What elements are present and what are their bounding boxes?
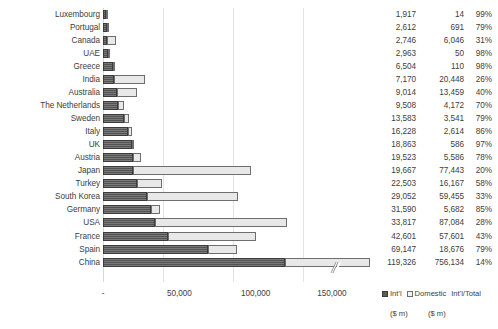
category-label: Sweden — [8, 112, 100, 125]
value-ratio: 43% — [462, 230, 492, 243]
bar-track — [103, 75, 145, 84]
bar-segment-intl — [103, 127, 128, 136]
value-intl: 13,583 — [358, 112, 416, 125]
value-domestic: 77,443 — [418, 164, 464, 177]
value-intl: 2,746 — [358, 34, 416, 47]
bar-segment-intl — [103, 140, 132, 149]
chart-row: UK18,86358697% — [0, 138, 498, 151]
bar-segment-intl — [103, 114, 124, 123]
value-ratio: 78% — [462, 151, 492, 164]
bar-segment-domestic — [151, 205, 160, 214]
chart-row: The Netherlands9,5084,17270% — [0, 99, 498, 112]
value-ratio: 85% — [462, 203, 492, 216]
value-ratio: 99% — [462, 8, 492, 21]
value-domestic: 586 — [418, 138, 464, 151]
bar-track — [103, 179, 162, 188]
bar-segment-domestic — [208, 245, 236, 254]
value-domestic: 3,541 — [418, 112, 464, 125]
bar-segment-domestic — [124, 114, 129, 123]
chart-row: Turkey22,50316,16758% — [0, 177, 498, 190]
bar-segment-intl — [103, 192, 147, 201]
value-domestic: 691 — [418, 21, 464, 34]
bar-segment-domestic — [113, 62, 115, 71]
value-domestic: 20,448 — [418, 73, 464, 86]
legend-swatch-domestic-icon — [407, 291, 413, 297]
bar-segment-domestic — [133, 166, 251, 175]
value-ratio: 79% — [462, 21, 492, 34]
value-intl: 29,052 — [358, 190, 416, 203]
value-domestic: 50 — [418, 47, 464, 60]
bar-track — [103, 62, 113, 71]
value-ratio: 98% — [462, 47, 492, 60]
category-label: France — [8, 230, 100, 243]
bar-track — [103, 153, 141, 162]
chart-row: China119,326756,13414% — [0, 256, 498, 269]
bar-segment-domestic — [147, 192, 238, 201]
legend-label-domestic: Domestic — [415, 289, 447, 298]
value-ratio: 28% — [462, 216, 492, 229]
category-label: Luxembourg — [8, 8, 100, 21]
chart-row: France42,60157,60143% — [0, 230, 498, 243]
legend-swatch-intl-icon — [382, 291, 388, 297]
value-intl: 33,817 — [358, 216, 416, 229]
category-label: The Netherlands — [8, 99, 100, 112]
category-label: UK — [8, 138, 100, 151]
category-label: Canada — [8, 34, 100, 47]
chart-row: India7,17020,44826% — [0, 73, 498, 86]
bar-track — [103, 218, 287, 227]
category-label: Turkey — [8, 177, 100, 190]
value-intl: 1,917 — [358, 8, 416, 21]
value-domestic: 18,676 — [418, 243, 464, 256]
value-domestic: 13,459 — [418, 86, 464, 99]
value-intl: 7,170 — [358, 73, 416, 86]
bar-segment-domestic — [106, 10, 108, 19]
bar-track — [103, 127, 132, 136]
chart-row: UAE2,9635098% — [0, 47, 498, 60]
bar-segment-intl — [103, 218, 155, 227]
bar-segment-intl — [103, 258, 285, 267]
category-label: UAE — [8, 47, 100, 60]
x-tick-label: 50,000 — [149, 288, 209, 300]
bar-segment-domestic — [107, 23, 109, 32]
bar-segment-intl — [103, 101, 118, 110]
legend-unit-intl: ($ m) — [390, 309, 408, 318]
value-domestic: 2,614 — [418, 125, 464, 138]
bar-segment-domestic — [118, 101, 124, 110]
value-domestic: 6,046 — [418, 34, 464, 47]
bar-track — [103, 114, 129, 123]
chart-row: South Korea29,05259,45533% — [0, 190, 498, 203]
value-ratio: 86% — [462, 125, 492, 138]
bar-segment-domestic — [108, 49, 110, 58]
bar-track — [103, 245, 237, 254]
legend-label-intl: Int'l — [390, 289, 402, 298]
bar-track — [103, 88, 137, 97]
category-label: Italy — [8, 125, 100, 138]
category-label: China — [8, 256, 100, 269]
value-ratio: 79% — [462, 112, 492, 125]
bar-track — [103, 166, 251, 175]
value-intl: 69,147 — [358, 243, 416, 256]
value-domestic: 110 — [418, 60, 464, 73]
bar-segment-intl — [103, 245, 208, 254]
value-intl: 18,863 — [358, 138, 416, 151]
bar-track — [103, 10, 106, 19]
value-domestic: 16,167 — [418, 177, 464, 190]
bar-segment-domestic — [107, 36, 116, 45]
bar-segment-intl — [103, 205, 151, 214]
category-label: Spain — [8, 243, 100, 256]
value-domestic: 5,586 — [418, 151, 464, 164]
value-ratio: 26% — [462, 73, 492, 86]
value-ratio: 14% — [462, 256, 492, 269]
bar-segment-domestic — [117, 88, 138, 97]
bar-segment-domestic — [137, 179, 162, 188]
bar-segment-domestic — [168, 232, 256, 241]
chart-row: Sweden13,5833,54179% — [0, 112, 498, 125]
value-intl: 19,667 — [358, 164, 416, 177]
bar-segment-domestic — [114, 75, 145, 84]
value-ratio: 58% — [462, 177, 492, 190]
value-ratio: 20% — [462, 164, 492, 177]
chart-row: Germany31,5905,68285% — [0, 203, 498, 216]
value-intl: 119,326 — [358, 256, 416, 269]
value-intl: 9,014 — [358, 86, 416, 99]
chart-row: USA33,81787,08428% — [0, 216, 498, 229]
